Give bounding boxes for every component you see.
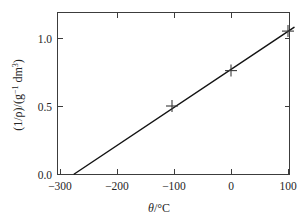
svg-text:(1/ρ)/(g−1 dm3): (1/ρ)/(g−1 dm3) (11, 59, 25, 131)
chart-svg: 1.0 0.5 0.0 −300 −200 −100 0 100 θ/°C (1… (0, 0, 304, 223)
x-axis-title: θ/°C (148, 201, 170, 215)
x-axis-title-unit: °C (157, 201, 170, 215)
x-tick-label: 0 (228, 180, 234, 192)
svg-text:θ/°C: θ/°C (148, 201, 170, 215)
x-tick-label: −100 (162, 180, 186, 192)
y-axis-title-unit-close: ) (11, 59, 25, 63)
y-axis-title-unit-mid: dm (11, 67, 25, 86)
y-axis-title: (1/ρ)/(g−1 dm3) (11, 59, 25, 131)
y-tick-label: 0.5 (38, 101, 53, 113)
x-tick-label: −300 (48, 180, 72, 192)
x-tick-label: 100 (279, 180, 297, 192)
x-tick-label: −200 (105, 180, 129, 192)
y-axis-title-numerator: (1/ρ) (11, 107, 25, 130)
y-tick-label: 1.0 (38, 33, 53, 45)
y-axis-title-exponent-1: −1 (11, 86, 20, 95)
y-tick-label: 0.0 (38, 169, 53, 181)
y-axis-title-unit-open: (g (11, 94, 25, 104)
chart-figure: 1.0 0.5 0.0 −300 −200 −100 0 100 θ/°C (1… (0, 0, 304, 223)
